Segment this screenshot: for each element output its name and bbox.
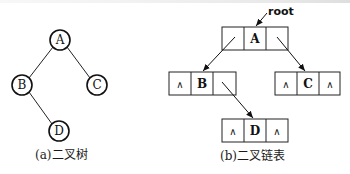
svg-text:A: A xyxy=(249,32,260,46)
caption-binary-linked-list: (b)二叉链表 xyxy=(220,146,285,163)
svg-text:C: C xyxy=(303,77,313,91)
svg-text:∧: ∧ xyxy=(176,79,183,90)
binary-linked-list: A ∧ B ∧ C ∧ ∧ D ∧ xyxy=(169,13,340,142)
binary-tree: A B C D xyxy=(12,30,107,141)
tree-node-c: C xyxy=(87,75,107,95)
svg-text:C: C xyxy=(92,78,101,92)
root-label: root xyxy=(268,5,294,18)
svg-text:D: D xyxy=(250,124,260,138)
svg-text:∧: ∧ xyxy=(273,126,280,137)
edge-a-b xyxy=(29,47,53,78)
tree-node-b: B xyxy=(12,75,32,95)
caption-binary-tree: (a)二叉树 xyxy=(35,145,88,162)
svg-text:A: A xyxy=(55,33,65,47)
svg-text:∧: ∧ xyxy=(282,79,289,90)
svg-text:∧: ∧ xyxy=(326,79,333,90)
svg-text:B: B xyxy=(18,78,27,92)
list-node-d: ∧ D ∧ xyxy=(222,119,288,142)
pointer-a-to-c xyxy=(277,37,305,71)
edge-a-c xyxy=(67,47,90,78)
pointer-a-to-b xyxy=(203,37,235,71)
svg-text:D: D xyxy=(54,124,64,138)
list-node-c: ∧ C ∧ xyxy=(275,72,340,95)
svg-text:B: B xyxy=(197,77,207,91)
pointer-b-to-d xyxy=(222,82,253,118)
edge-b-d xyxy=(29,92,52,124)
svg-text:∧: ∧ xyxy=(229,126,236,137)
list-node-b: ∧ B xyxy=(169,72,236,95)
tree-node-d: D xyxy=(49,121,69,141)
root-arrow xyxy=(256,13,267,26)
tree-node-a: A xyxy=(50,30,70,50)
